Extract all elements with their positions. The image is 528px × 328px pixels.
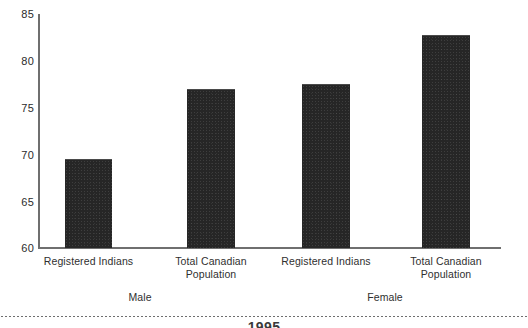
dotted-separator — [0, 314, 528, 317]
y-tick-label: 80 — [6, 56, 34, 67]
group-label-male: Male — [100, 291, 180, 304]
y-tick-label: 65 — [6, 197, 34, 208]
y-tick-85: 85 — [0, 9, 34, 20]
chart-page: 85 80 75 70 65 60 Registered Indians Tot… — [0, 0, 528, 328]
y-tick-60: 60 — [0, 243, 34, 254]
category-label-line: Registered Indians — [28, 255, 149, 268]
y-tick-label: 70 — [6, 150, 34, 161]
bar-male-total-canadian — [187, 89, 235, 248]
bar-male-registered-indians — [65, 159, 112, 248]
y-tick-80: 80 — [0, 56, 34, 67]
category-label-line: Registered Indians — [266, 255, 386, 268]
y-tick-65: 65 — [0, 197, 34, 208]
bar-female-registered-indians — [302, 84, 350, 248]
group-label-female: Female — [345, 291, 425, 304]
y-tick-70: 70 — [0, 150, 34, 161]
y-tick-75: 75 — [0, 103, 34, 114]
category-label-4: Total Canadian Population — [386, 255, 506, 281]
y-axis-line — [38, 14, 40, 249]
category-label-3: Registered Indians — [266, 255, 386, 268]
category-label-line: Population — [151, 268, 271, 281]
y-tick-label: 75 — [6, 103, 34, 114]
bar-chart: 85 80 75 70 65 60 Registered Indians Tot… — [0, 0, 528, 328]
category-label-line: Population — [386, 268, 506, 281]
y-tick-label: 60 — [6, 243, 34, 254]
bar-female-total-canadian — [422, 35, 470, 248]
category-label-line: Total Canadian — [151, 255, 271, 268]
category-label-line: Total Canadian — [386, 255, 506, 268]
category-label-2: Total Canadian Population — [151, 255, 271, 281]
category-label-1: Registered Indians — [28, 255, 149, 268]
y-tick-label: 85 — [6, 9, 34, 20]
cut-off-caption: 1995 — [0, 320, 528, 328]
